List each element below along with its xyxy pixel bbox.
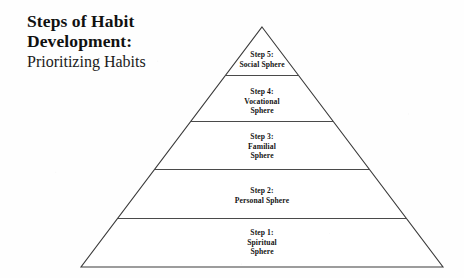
pyramid-tier-step-3: Step 3: Familial Sphere [192,132,332,161]
diagram-canvas: Steps of Habit Development: Prioritizing… [0,0,464,278]
pyramid-tier-step-4: Step 4: Vocational Sphere [197,87,327,116]
pyramid-tier-step-1: Step 1: Spiritual Sphere [167,228,357,257]
pyramid-tier-step-5: Step 5: Social Sphere [202,50,322,69]
pyramid-tier-step-2: Step 2: Personal Sphere [177,186,347,205]
